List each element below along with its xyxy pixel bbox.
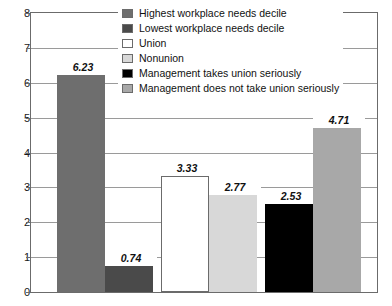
legend-item: Lowest workplace needs decile: [122, 21, 339, 36]
legend-item-label: Nonunion: [139, 53, 184, 64]
y-axis: 012345678: [0, 0, 30, 306]
legend-item-label: Union: [139, 38, 166, 49]
bar-value-label: 4.71: [313, 115, 365, 126]
legend-swatch-icon: [122, 69, 133, 78]
legend-item-label: Management does not take union seriously: [139, 83, 339, 94]
legend-swatch-icon: [122, 84, 133, 93]
bar: [161, 176, 209, 292]
bar-value-label: 3.33: [161, 163, 213, 174]
legend-item: Management takes union seriously: [122, 66, 339, 81]
bar: [265, 204, 313, 292]
chart-legend: Highest workplace needs decileLowest wor…: [118, 3, 343, 99]
legend-swatch-icon: [122, 54, 133, 63]
bar: [209, 195, 257, 292]
bar: [57, 75, 105, 292]
bar-chart: 012345678 6.230.743.332.772.534.71 Highe…: [0, 0, 392, 306]
bar-value-label: 6.23: [57, 62, 109, 73]
bar-value-label: 2.77: [209, 182, 261, 193]
legend-item: Management does not take union seriously: [122, 81, 339, 96]
bar-value-label: 0.74: [105, 253, 157, 264]
legend-swatch-icon: [122, 39, 133, 48]
legend-swatch-icon: [122, 9, 133, 18]
legend-item: Union: [122, 36, 339, 51]
legend-item-label: Management takes union seriously: [139, 68, 301, 79]
legend-item: Highest workplace needs decile: [122, 6, 339, 21]
legend-swatch-icon: [122, 24, 133, 33]
bar: [105, 266, 153, 292]
legend-item-label: Highest workplace needs decile: [139, 8, 287, 19]
bar: [313, 128, 361, 292]
bar-value-label: 2.53: [265, 191, 317, 202]
legend-item: Nonunion: [122, 51, 339, 66]
legend-item-label: Lowest workplace needs decile: [139, 23, 284, 34]
